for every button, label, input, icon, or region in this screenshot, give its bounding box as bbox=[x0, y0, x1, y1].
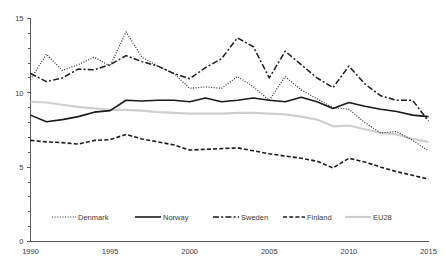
y-tick-label: 10 bbox=[15, 89, 23, 98]
y-tick-label: 5 bbox=[19, 163, 23, 172]
line-chart: 051015 199019952000200520102015 DenmarkN… bbox=[0, 0, 446, 273]
chart-legend: DenmarkNorwaySwedenFinlandEU28 bbox=[52, 213, 392, 222]
legend-label-finland: Finland bbox=[307, 213, 332, 222]
x-tick-label: 1995 bbox=[102, 247, 119, 256]
x-tick-label: 1990 bbox=[22, 247, 39, 256]
legend-item-eu28[interactable]: EU28 bbox=[345, 213, 392, 222]
legend-label-sweden: Sweden bbox=[241, 213, 268, 222]
x-tick-label: 2000 bbox=[181, 247, 198, 256]
legend-item-sweden[interactable]: Sweden bbox=[213, 213, 268, 222]
y-axis: 051015 bbox=[15, 14, 30, 246]
chart-plot-area: 051015 199019952000200520102015 DenmarkN… bbox=[0, 0, 446, 273]
series-line-eu28 bbox=[31, 102, 429, 142]
y-tick-label: 0 bbox=[19, 237, 23, 246]
series-line-norway bbox=[31, 97, 429, 122]
legend-label-eu28: EU28 bbox=[373, 213, 392, 222]
x-tick-label: 2015 bbox=[420, 247, 437, 256]
x-tick-label: 2005 bbox=[261, 247, 278, 256]
x-tick-label: 2010 bbox=[341, 247, 358, 256]
legend-label-norway: Norway bbox=[163, 213, 189, 222]
series-line-finland bbox=[31, 134, 429, 179]
x-axis: 199019952000200520102015 bbox=[22, 242, 437, 256]
legend-item-denmark[interactable]: Denmark bbox=[52, 213, 109, 222]
y-tick-label: 15 bbox=[15, 14, 23, 23]
series-lines bbox=[31, 32, 429, 179]
legend-label-denmark: Denmark bbox=[78, 213, 109, 222]
series-line-denmark bbox=[31, 32, 429, 151]
legend-item-norway[interactable]: Norway bbox=[135, 213, 189, 222]
legend-item-finland[interactable]: Finland bbox=[283, 213, 332, 222]
